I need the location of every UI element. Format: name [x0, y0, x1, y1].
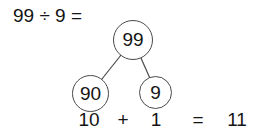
- solution-result: 11: [227, 109, 247, 132]
- bond-part-right-value: 9: [150, 82, 161, 104]
- bond-whole-circle: 99: [113, 20, 153, 60]
- number-bond-worksheet: 99 ÷ 9 = 99 90 9 10 + 1 = 11: [0, 0, 267, 136]
- equals-sign: =: [192, 109, 203, 132]
- bond-part-right-circle: 9: [139, 76, 172, 109]
- solution-addend-left: 10: [78, 109, 99, 132]
- bond-part-left-value: 90: [80, 83, 101, 105]
- bond-whole-value: 99: [122, 29, 143, 51]
- plus-sign: +: [117, 109, 128, 132]
- solution-addend-right: 1: [151, 109, 162, 132]
- bond-part-left-circle: 90: [72, 75, 109, 112]
